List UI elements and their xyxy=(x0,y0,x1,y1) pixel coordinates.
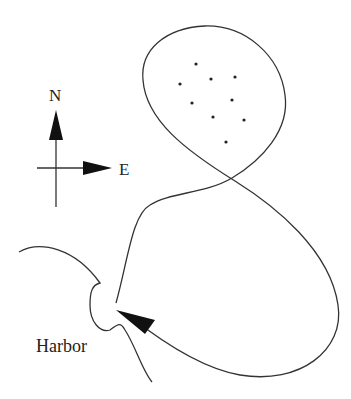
island-dots xyxy=(178,62,245,143)
north-label: N xyxy=(49,86,61,105)
compass: N E xyxy=(37,86,129,207)
harbor-label: Harbor xyxy=(36,336,87,356)
east-arrow-icon xyxy=(83,161,112,175)
route-map-diagram: N E Harbor xyxy=(0,0,351,399)
east-label: E xyxy=(119,160,129,179)
north-arrow-icon xyxy=(49,110,63,140)
